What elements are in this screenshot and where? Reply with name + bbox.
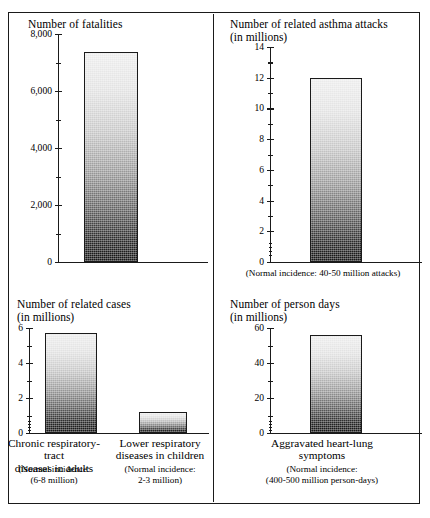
y-tick-minor-b — [269, 424, 273, 425]
plot-area-persondays: 60 40 20 0 — [270, 328, 422, 434]
y-label-6: 6 — [7, 322, 23, 333]
y-tick-7000 — [56, 63, 61, 64]
y-tick-3 — [27, 381, 32, 382]
y-tick-9 — [268, 124, 273, 125]
plot-area-fatalities: 8,000 6,000 4,000 2,000 0 — [58, 34, 208, 263]
y-label-2: 2 — [236, 225, 264, 236]
y-tick-3 — [268, 216, 273, 217]
y-label-10: 10 — [236, 102, 264, 113]
y-label-14: 14 — [236, 41, 264, 52]
y-tick-30 — [268, 381, 273, 382]
y-label-20: 20 — [242, 392, 264, 403]
category-label-aggravated-heartlung: Aggravated heart-lung symptoms — [227, 437, 417, 462]
y-tick-3000 — [56, 177, 61, 178]
y-tick-13 — [268, 62, 273, 63]
y-tick-6 — [26, 328, 33, 329]
y-tick-minor-d — [269, 255, 273, 256]
y-label-6000: 6,000 — [8, 85, 52, 96]
y-label-4000: 4,000 — [8, 142, 52, 153]
panel-asthma-title: Number of related asthma attacks — [230, 18, 388, 31]
category-note-chronic-adults: (Normal incidence: (6-8 million) — [0, 464, 108, 485]
category-label-lower-children: Lower respiratory diseases in children — [107, 437, 213, 462]
y-tick-minor-c — [269, 427, 273, 428]
y-label-2: 2 — [7, 392, 23, 403]
y-tick-5 — [27, 346, 32, 347]
y-tick-2000 — [55, 205, 62, 206]
y-label-4: 4 — [236, 195, 264, 206]
bar-chronic-respiratory-adults — [45, 333, 97, 433]
y-tick-5000 — [56, 120, 61, 121]
y-tick-minor-d — [269, 430, 273, 431]
y-tick-60 — [267, 328, 274, 329]
y-tick-minor-b — [28, 424, 32, 425]
y-tick-minor-a — [269, 421, 273, 422]
y-label-8: 8 — [236, 133, 264, 144]
y-tick-0 — [26, 433, 33, 434]
x-axis-asthma — [270, 262, 422, 263]
y-tick-4 — [267, 201, 274, 202]
x-axis-cases — [29, 433, 209, 434]
y-tick-12 — [267, 78, 274, 79]
y-tick-0 — [267, 433, 274, 434]
y-tick-50 — [268, 346, 273, 347]
y-tick-5 — [268, 185, 273, 186]
y-tick-2 — [267, 231, 274, 232]
panel-asthma-note: (Normal incidence: 40-50 million attacks… — [219, 268, 427, 279]
y-tick-10 — [268, 416, 273, 417]
y-tick-14 — [267, 47, 274, 48]
figure-page: Number of fatalities 8,000 6,000 4,000 2… — [0, 0, 430, 518]
y-tick-40 — [267, 363, 274, 364]
x-axis-fatalities — [58, 262, 208, 263]
y-tick-0 — [55, 262, 62, 263]
x-axis-persondays — [270, 433, 422, 434]
y-label-0: 0 — [8, 256, 52, 267]
y-tick-6 — [267, 170, 274, 171]
y-tick-11 — [268, 93, 273, 94]
category-note-lower-children: (Normal incidence: 2-3 million) — [107, 464, 213, 485]
y-label-12: 12 — [236, 72, 264, 83]
y-tick-minor-d — [28, 430, 32, 431]
y-tick-1 — [27, 416, 32, 417]
bar-asthma — [310, 78, 362, 262]
y-tick-1000 — [56, 234, 61, 235]
y-label-6: 6 — [236, 164, 264, 175]
y-tick-minor-b — [269, 247, 273, 248]
plot-area-cases: 6 4 2 0 — [29, 328, 209, 434]
y-tick-2 — [26, 398, 33, 399]
panel-asthma: Number of related asthma attacks (in mil… — [213, 0, 430, 290]
panel-cases-title: Number of related cases — [17, 298, 131, 311]
y-tick-minor-a — [28, 421, 32, 422]
panel-persondays-title: Number of person days — [230, 298, 340, 311]
y-tick-7 — [268, 155, 273, 156]
category-note-aggravated-heartlung: (Normal incidence: (400-500 million pers… — [219, 464, 425, 485]
y-label-8000: 8,000 — [8, 28, 52, 39]
bar-lower-respiratory-children — [139, 412, 187, 433]
y-tick-8 — [267, 139, 274, 140]
panel-fatalities: Number of fatalities 8,000 6,000 4,000 2… — [0, 0, 213, 280]
plot-area-asthma: 14 12 10 8 6 4 2 0 — [270, 47, 422, 263]
y-tick-8000 — [55, 34, 62, 35]
panel-cases-subtitle: (in millions) — [17, 311, 74, 324]
bar-fatalities — [84, 52, 138, 262]
y-label-0: 0 — [236, 256, 264, 267]
panel-cases: Number of related cases (in millions) 6 … — [0, 290, 213, 518]
y-tick-minor-a — [269, 243, 273, 244]
panel-persondays: Number of person days (in millions) 60 4… — [213, 290, 430, 518]
y-tick-minor-c — [28, 427, 32, 428]
y-label-60: 60 — [242, 322, 264, 333]
y-tick-10 — [267, 108, 274, 109]
bar-persondays — [310, 335, 362, 433]
y-label-4: 4 — [7, 357, 23, 368]
y-tick-minor-c — [269, 251, 273, 252]
y-tick-20 — [267, 398, 274, 399]
y-label-2000: 2,000 — [8, 199, 52, 210]
y-tick-6000 — [55, 91, 62, 92]
y-tick-4 — [26, 363, 33, 364]
y-tick-4000 — [55, 148, 62, 149]
y-tick-0 — [267, 262, 274, 263]
y-label-40: 40 — [242, 357, 264, 368]
